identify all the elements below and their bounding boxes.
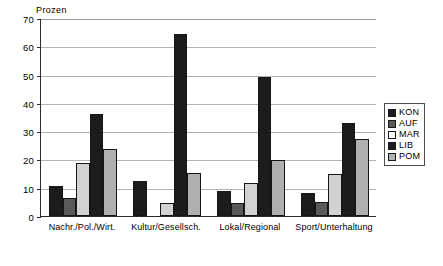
y-axis-tick-label: 70 xyxy=(23,14,34,25)
bar-auf xyxy=(315,202,329,216)
y-axis-tick xyxy=(37,132,41,133)
bar-auf xyxy=(63,198,77,216)
chart-legend: KONAUFMARLIBPOM xyxy=(384,103,425,166)
y-axis-tick xyxy=(37,104,41,105)
y-axis-tick xyxy=(37,47,41,48)
bar-mar xyxy=(76,163,90,216)
bar-group xyxy=(301,19,369,216)
plot-area: 010203040506070 xyxy=(40,19,376,217)
bar-group xyxy=(133,19,201,216)
y-axis-tick xyxy=(37,160,41,161)
bar-chart: Prozen 010203040506070 KONAUFMARLIBPOM N… xyxy=(0,0,443,266)
legend-label: POM xyxy=(399,152,420,161)
y-axis-tick-label: 20 xyxy=(23,155,34,166)
legend-label: MAR xyxy=(399,130,420,139)
y-axis-title: Prozen xyxy=(36,5,67,15)
bar-kon xyxy=(301,193,315,216)
bar-lib xyxy=(174,34,188,216)
legend-item-mar[interactable]: MAR xyxy=(388,129,420,140)
bar-mar xyxy=(244,183,258,216)
legend-label: KON xyxy=(399,108,419,117)
y-axis-tick xyxy=(37,217,41,218)
legend-label: AUF xyxy=(399,119,418,128)
legend-swatch-icon xyxy=(388,142,396,150)
y-axis-tick xyxy=(37,19,41,20)
y-axis-tick-label: 0 xyxy=(29,212,34,223)
bar-lib xyxy=(258,77,272,216)
bar-kon xyxy=(217,191,231,216)
y-axis-tick-label: 10 xyxy=(23,183,34,194)
bar-kon xyxy=(133,181,147,216)
bar-pom xyxy=(355,139,369,216)
y-axis-tick-label: 30 xyxy=(23,127,34,138)
legend-label: LIB xyxy=(399,141,413,150)
bar-pom xyxy=(187,173,201,216)
bar-lib xyxy=(90,114,104,216)
legend-swatch-icon xyxy=(388,109,396,117)
y-axis-tick xyxy=(37,76,41,77)
legend-swatch-icon xyxy=(388,131,396,139)
x-axis-category-label: Sport/Unterhaltung xyxy=(278,222,390,232)
plot-inner: 010203040506070 xyxy=(41,19,376,216)
y-axis-tick-label: 50 xyxy=(23,70,34,81)
legend-item-auf[interactable]: AUF xyxy=(388,118,420,129)
bar-mar xyxy=(328,174,342,216)
legend-item-lib[interactable]: LIB xyxy=(388,140,420,151)
legend-item-kon[interactable]: KON xyxy=(388,107,420,118)
y-axis-tick-label: 60 xyxy=(23,42,34,53)
bar-lib xyxy=(342,123,356,216)
y-axis-tick-label: 40 xyxy=(23,98,34,109)
bar-pom xyxy=(271,160,285,216)
bar-group xyxy=(49,19,117,216)
bar-kon xyxy=(49,186,63,216)
bar-pom xyxy=(103,149,117,216)
bar-group xyxy=(217,19,285,216)
bar-mar xyxy=(160,203,174,216)
legend-swatch-icon xyxy=(388,120,396,128)
legend-item-pom[interactable]: POM xyxy=(388,151,420,162)
y-axis-tick xyxy=(37,189,41,190)
bar-auf xyxy=(231,203,245,216)
legend-swatch-icon xyxy=(388,153,396,161)
